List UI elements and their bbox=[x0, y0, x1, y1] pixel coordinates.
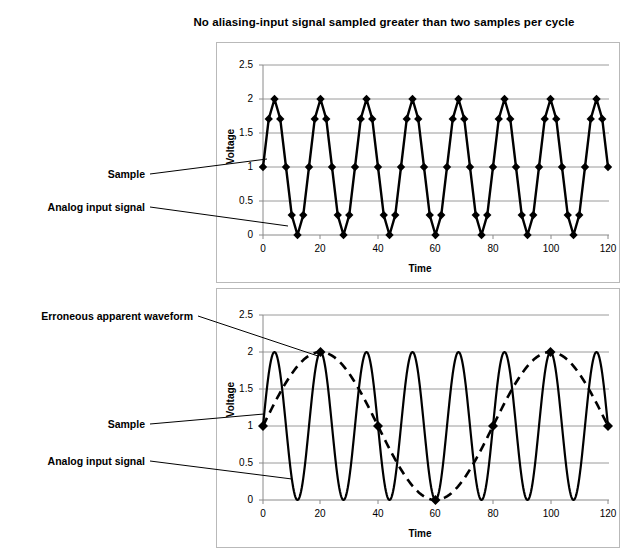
callout-top-sample: Sample bbox=[40, 168, 145, 180]
chart-top-yaxis-title: Voltage bbox=[225, 117, 236, 177]
chart-bottom-xtick-40: 40 bbox=[363, 508, 393, 519]
chart-bottom-ytick-2: 2 bbox=[219, 346, 253, 357]
chart-bottom-xtick-120: 120 bbox=[593, 508, 623, 519]
figure-root: No aliasing-input signal sampled greater… bbox=[0, 0, 638, 559]
chart-bottom: 2.5 2 1.5 1 0.5 0 0 20 40 60 80 100 120 … bbox=[216, 288, 620, 548]
chart-bottom-axes bbox=[263, 315, 609, 500]
chart-top: 2.5 2 1.5 1 0.5 0 0 20 40 60 80 100 120 … bbox=[216, 42, 620, 283]
chart-bottom-xtick-0: 0 bbox=[248, 508, 278, 519]
chart-top-ytick-2: 2 bbox=[219, 93, 253, 104]
chart-top-xtick-120: 120 bbox=[593, 243, 623, 254]
figure-title: No aliasing-input signal sampled greater… bbox=[0, 16, 638, 28]
chart-top-ytick-2.5: 2.5 bbox=[219, 59, 253, 70]
chart-bottom-xaxis-title: Time bbox=[380, 528, 460, 539]
chart-top-ytick-0.5: 0.5 bbox=[219, 195, 253, 206]
callout-bottom-erroneous: Erroneous apparent waveform bbox=[8, 310, 193, 322]
chart-top-xtick-80: 80 bbox=[478, 243, 508, 254]
chart-bottom-ytick-0: 0 bbox=[219, 494, 253, 505]
chart-top-xtick-0: 0 bbox=[248, 243, 278, 254]
chart-top-xtick-100: 100 bbox=[536, 243, 566, 254]
chart-bottom-ytick-0.5: 0.5 bbox=[219, 457, 253, 468]
chart-bottom-xtick-80: 80 bbox=[478, 508, 508, 519]
chart-top-xtick-40: 40 bbox=[363, 243, 393, 254]
chart-top-yticks bbox=[259, 65, 263, 235]
chart-bottom-xtick-60: 60 bbox=[420, 508, 450, 519]
chart-top-ytick-0: 0 bbox=[219, 229, 253, 240]
chart-top-xtick-60: 60 bbox=[420, 243, 450, 254]
figure-title-text: No aliasing-input signal sampled greater… bbox=[63, 16, 574, 28]
callout-top-analog: Analog input signal bbox=[10, 201, 145, 213]
callout-bottom-sample: Sample bbox=[40, 418, 145, 430]
chart-bottom-yaxis-title: Voltage bbox=[225, 370, 236, 430]
chart-top-axes bbox=[263, 65, 609, 235]
chart-top-xaxis-title: Time bbox=[380, 263, 460, 274]
chart-bottom-xtick-20: 20 bbox=[305, 508, 335, 519]
callout-bottom-analog: Analog input signal bbox=[10, 455, 145, 467]
chart-bottom-yticks bbox=[259, 315, 263, 500]
chart-bottom-ytick-2.5: 2.5 bbox=[219, 309, 253, 320]
chart-top-xtick-20: 20 bbox=[305, 243, 335, 254]
chart-bottom-xtick-100: 100 bbox=[536, 508, 566, 519]
